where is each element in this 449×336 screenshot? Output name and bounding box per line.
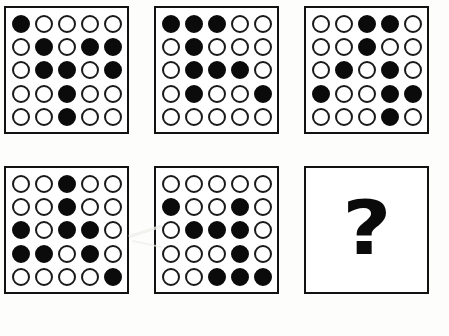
matrix-cell: [33, 242, 56, 265]
empty-circle-icon: [185, 245, 203, 263]
panel-slot-5: [154, 166, 304, 326]
empty-circle-icon: [312, 108, 330, 126]
matrix-cell: [228, 82, 251, 105]
matrix-cell: [401, 35, 424, 58]
panel-2: [154, 6, 279, 134]
matrix-cell: [33, 106, 56, 129]
matrix-cell: [101, 219, 124, 242]
matrix-cell: [333, 106, 356, 129]
empty-circle-icon: [35, 268, 53, 286]
matrix-cell: [56, 172, 79, 195]
matrix-cell: [56, 106, 79, 129]
empty-circle-icon: [231, 175, 249, 193]
matrix-cell: [56, 195, 79, 218]
matrix-cell: [78, 59, 101, 82]
empty-circle-icon: [404, 108, 422, 126]
matrix-cell: [56, 59, 79, 82]
empty-circle-icon: [162, 175, 180, 193]
matrix-cell: [78, 242, 101, 265]
filled-circle-icon: [208, 61, 226, 79]
panel-1: [4, 6, 129, 134]
filled-circle-icon: [254, 268, 272, 286]
filled-circle-icon: [381, 15, 399, 33]
matrix-cell: [10, 266, 33, 289]
matrix-cell: [378, 59, 401, 82]
empty-circle-icon: [335, 15, 353, 33]
empty-circle-icon: [358, 108, 376, 126]
matrix-cell: [401, 82, 424, 105]
empty-circle-icon: [185, 268, 203, 286]
filled-circle-icon: [58, 61, 76, 79]
matrix-cell: [183, 59, 206, 82]
filled-circle-icon: [208, 268, 226, 286]
matrix-cell: [378, 82, 401, 105]
empty-circle-icon: [162, 108, 180, 126]
filled-circle-icon: [81, 221, 99, 239]
dot-matrix: [6, 8, 127, 132]
matrix-cell: [56, 266, 79, 289]
matrix-cell: [33, 219, 56, 242]
filled-circle-icon: [358, 38, 376, 56]
empty-circle-icon: [81, 85, 99, 103]
empty-circle-icon: [104, 198, 122, 216]
matrix-cell: [160, 266, 183, 289]
matrix-cell: [10, 12, 33, 35]
filled-circle-icon: [162, 198, 180, 216]
empty-circle-icon: [35, 198, 53, 216]
filled-circle-icon: [35, 61, 53, 79]
matrix-cell: [160, 242, 183, 265]
matrix-cell: [333, 35, 356, 58]
matrix-cell: [56, 242, 79, 265]
matrix-cell: [10, 35, 33, 58]
empty-circle-icon: [35, 221, 53, 239]
matrix-cell: [356, 59, 379, 82]
matrix-cell: [228, 195, 251, 218]
matrix-cell: [33, 12, 56, 35]
filled-circle-icon: [185, 15, 203, 33]
matrix-cell: [310, 82, 333, 105]
empty-circle-icon: [335, 108, 353, 126]
matrix-cell: [78, 195, 101, 218]
empty-circle-icon: [185, 108, 203, 126]
empty-circle-icon: [12, 268, 30, 286]
empty-circle-icon: [335, 85, 353, 103]
matrix-cell: [183, 106, 206, 129]
matrix-cell: [310, 59, 333, 82]
matrix-cell: [401, 106, 424, 129]
matrix-cell: [160, 106, 183, 129]
filled-circle-icon: [231, 61, 249, 79]
filled-circle-icon: [231, 221, 249, 239]
matrix-cell: [378, 35, 401, 58]
empty-circle-icon: [12, 38, 30, 56]
filled-circle-icon: [231, 268, 249, 286]
filled-circle-icon: [254, 85, 272, 103]
matrix-cell: [78, 106, 101, 129]
matrix-cell: [183, 219, 206, 242]
matrix-cell: [378, 106, 401, 129]
matrix-cell: [356, 35, 379, 58]
matrix-cell: [206, 59, 229, 82]
empty-circle-icon: [185, 198, 203, 216]
panel-6-answer[interactable]: ?: [304, 166, 429, 294]
empty-circle-icon: [162, 85, 180, 103]
matrix-cell: [101, 12, 124, 35]
empty-circle-icon: [254, 38, 272, 56]
empty-circle-icon: [254, 15, 272, 33]
filled-circle-icon: [312, 85, 330, 103]
matrix-cell: [356, 106, 379, 129]
matrix-cell: [401, 59, 424, 82]
empty-circle-icon: [35, 108, 53, 126]
matrix-cell: [251, 219, 274, 242]
matrix-cell: [206, 82, 229, 105]
panel-slot-3: [304, 6, 449, 166]
matrix-cell: [251, 106, 274, 129]
matrix-cell: [251, 172, 274, 195]
matrix-cell: [160, 12, 183, 35]
matrix-cell: [56, 35, 79, 58]
matrix-cell: [228, 219, 251, 242]
matrix-cell: [356, 82, 379, 105]
matrix-cell: [206, 266, 229, 289]
empty-circle-icon: [81, 108, 99, 126]
matrix-cell: [33, 35, 56, 58]
matrix-cell: [10, 59, 33, 82]
